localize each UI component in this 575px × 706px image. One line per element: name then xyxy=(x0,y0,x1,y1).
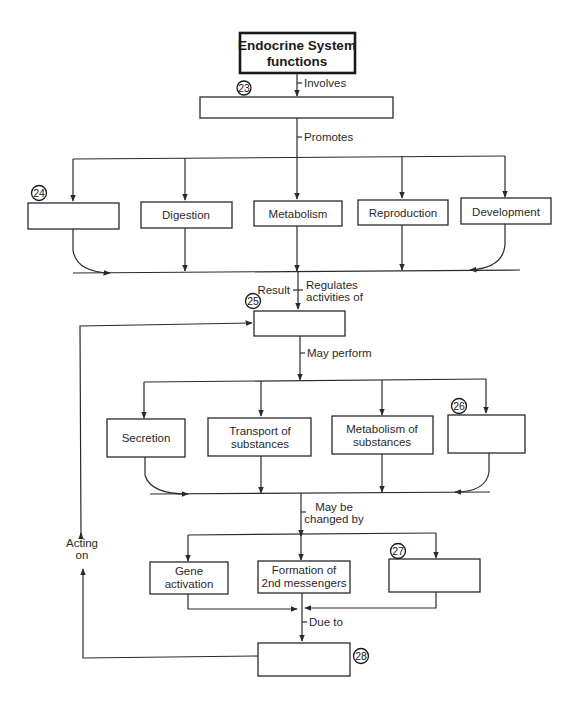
number-badge-25: 25 xyxy=(246,294,261,309)
box-gene-activation: Gene activation xyxy=(150,562,228,594)
converge-from-secretion xyxy=(145,457,188,494)
blank-box-24[interactable] xyxy=(28,203,119,229)
number-badge-28: 28 xyxy=(354,649,369,664)
svg-text:Formation of: Formation of xyxy=(272,564,337,576)
svg-text:Development: Development xyxy=(472,206,541,218)
converge-bar-2 xyxy=(150,492,490,494)
blank-box-28[interactable] xyxy=(258,643,350,676)
box-reproduction: Reproduction xyxy=(358,200,448,225)
converge-from-24 xyxy=(73,229,110,273)
svg-text:23: 23 xyxy=(238,82,250,94)
number-badge-27: 27 xyxy=(391,544,406,559)
svg-text:24: 24 xyxy=(33,187,45,199)
endocrine-flowchart: Endocrine System functions Involves 23 P… xyxy=(0,0,575,706)
box-metabolism-of-substances: Metabolism of substances xyxy=(332,416,433,454)
blank-box-23[interactable] xyxy=(200,97,393,118)
svg-text:Metabolism: Metabolism xyxy=(269,208,328,220)
svg-text:Transport of: Transport of xyxy=(229,425,291,437)
blank-box-27[interactable] xyxy=(389,559,480,592)
converge-from-development xyxy=(470,224,505,270)
number-badge-23: 23 xyxy=(237,81,251,95)
svg-text:Metabolism of: Metabolism of xyxy=(346,423,418,435)
number-badge-26: 26 xyxy=(452,399,467,414)
regulates-label-1: Regulates xyxy=(306,279,358,291)
involves-label: Involves xyxy=(304,77,346,89)
box-transport-of-substances: Transport of substances xyxy=(208,418,311,456)
svg-text:Reproduction: Reproduction xyxy=(369,207,437,219)
changed-by-label-2: changed by xyxy=(304,513,364,525)
blank-box-26[interactable] xyxy=(448,415,525,453)
may-perform-label: May perform xyxy=(307,347,372,359)
svg-text:Secretion: Secretion xyxy=(122,432,171,444)
converge-from-26 xyxy=(455,453,489,492)
converge-from-27 xyxy=(305,592,436,608)
acting-on-label-1: Acting xyxy=(66,537,98,549)
box-development: Development xyxy=(461,198,551,224)
svg-text:Digestion: Digestion xyxy=(162,209,210,221)
title-line-2: functions xyxy=(267,54,328,69)
number-badge-24: 24 xyxy=(32,186,47,201)
distribution-bar-2 xyxy=(144,379,486,382)
svg-text:26: 26 xyxy=(453,400,465,412)
svg-text:substances: substances xyxy=(353,436,411,448)
box-metabolism: Metabolism xyxy=(254,201,342,226)
svg-text:27: 27 xyxy=(392,545,404,557)
svg-text:28: 28 xyxy=(355,650,367,662)
distribution-bar-1 xyxy=(73,156,505,159)
svg-text:Gene: Gene xyxy=(175,565,203,577)
promotes-label: Promotes xyxy=(304,131,353,143)
acting-on-label-2: on xyxy=(76,549,89,561)
svg-text:substances: substances xyxy=(231,438,289,450)
converge-from-gene-activation xyxy=(188,594,297,609)
changed-by-label-1: May be xyxy=(315,501,353,513)
box-secretion: Secretion xyxy=(107,419,185,457)
regulates-label-2: activities of xyxy=(306,291,364,303)
svg-text:25: 25 xyxy=(247,295,259,307)
due-to-label: Due to xyxy=(309,616,343,628)
box-digestion: Digestion xyxy=(141,202,232,228)
result-label: Result xyxy=(257,284,290,296)
svg-text:activation: activation xyxy=(165,578,214,590)
title-line-1: Endocrine System xyxy=(238,38,356,53)
title-box: Endocrine System functions xyxy=(238,33,356,73)
distribution-bar-3 xyxy=(188,533,436,535)
svg-text:2nd messengers: 2nd messengers xyxy=(261,577,346,589)
box-formation-of-2nd-messengers: Formation of 2nd messengers xyxy=(258,561,350,593)
blank-box-25[interactable] xyxy=(254,311,345,336)
